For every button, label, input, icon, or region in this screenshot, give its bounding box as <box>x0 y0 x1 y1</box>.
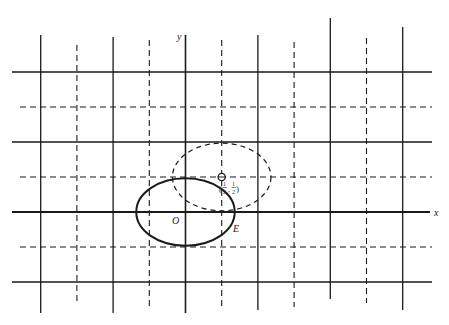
point-label-den-x: 2 <box>223 189 226 195</box>
translation-point <box>218 173 225 180</box>
point-label-close-paren: ) <box>236 184 239 194</box>
diagram-canvas: y x O E ( 1 2 , 1 2 ) <box>0 0 449 325</box>
y-axis-label: y <box>176 31 182 42</box>
x-axis-label: x <box>433 207 439 218</box>
point-label-num-y: 1 <box>232 181 235 187</box>
point-label-num-x: 1 <box>223 181 226 187</box>
ellipses <box>136 143 271 246</box>
vertical-grid-lines <box>41 18 403 313</box>
point-label-open-paren: ( <box>219 184 222 194</box>
origin-label: O <box>172 215 179 226</box>
ellipse-E-label: E <box>232 223 239 234</box>
point-label-comma: , <box>228 185 230 194</box>
point-label-den-y: 2 <box>232 189 235 195</box>
lattice-diagram: y x O E ( 1 2 , 1 2 ) <box>0 0 449 325</box>
